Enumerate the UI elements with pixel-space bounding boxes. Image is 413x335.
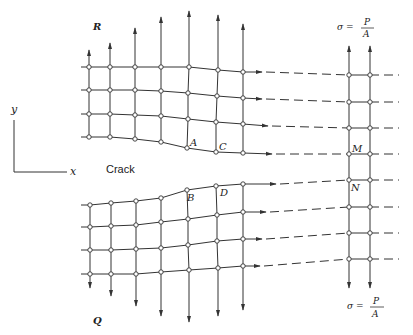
grid-node	[368, 257, 372, 261]
point-A-label: A	[189, 137, 197, 148]
grid-node	[216, 68, 220, 72]
grid-node	[241, 210, 245, 214]
grid-node	[187, 65, 191, 69]
y-axis-label: y	[10, 103, 18, 116]
grid-node	[88, 203, 92, 207]
grid-column-arrow-up	[216, 15, 218, 152]
grid-node	[215, 94, 219, 98]
dashed-connector	[270, 207, 349, 212]
grid-node	[241, 70, 245, 74]
grid-node	[109, 248, 113, 252]
grid-node	[134, 223, 138, 227]
grid-node	[241, 237, 245, 241]
grid-node	[347, 257, 351, 261]
grid-node	[134, 272, 138, 276]
grid-node	[108, 88, 112, 92]
grid-node	[347, 205, 351, 209]
grid-node	[159, 114, 163, 118]
grid-node	[216, 266, 220, 270]
grid-node	[88, 248, 92, 252]
dashed-connector	[266, 233, 349, 239]
grid-node	[241, 151, 245, 155]
grid-node	[108, 65, 112, 69]
dashed-connector	[272, 126, 349, 128]
sigma-lhs: σ =	[347, 301, 364, 311]
sigma-denominator: A	[362, 29, 370, 39]
grid-node	[159, 89, 163, 93]
grid-node	[241, 182, 245, 186]
grid-node	[368, 205, 372, 209]
grid-node	[347, 73, 351, 77]
grid-node	[368, 100, 372, 104]
grid-node	[109, 272, 113, 276]
grid-node	[215, 213, 219, 217]
grid-node	[134, 199, 138, 203]
grid-node	[133, 88, 137, 92]
point-D-label: D	[219, 187, 228, 198]
label-Q: Q	[93, 315, 102, 326]
grid-node	[347, 152, 351, 156]
grid-node	[133, 65, 137, 69]
grid-node	[186, 91, 190, 95]
grid-node	[159, 196, 163, 200]
grid-node	[186, 117, 190, 121]
grid-node	[108, 112, 112, 116]
grid-node	[368, 126, 372, 130]
x-axis-label: x	[70, 165, 77, 178]
far-field-grid	[264, 46, 399, 288]
grid-node	[88, 272, 92, 276]
grid-node	[87, 112, 91, 116]
dashed-connector	[264, 259, 349, 266]
grid-node	[159, 220, 163, 224]
grid-node	[368, 152, 372, 156]
sigma-lhs: σ =	[337, 22, 354, 32]
grid-node	[134, 247, 138, 251]
grid-node	[133, 113, 137, 117]
stress-formula-bottom: σ = P A	[347, 296, 384, 319]
grid-node	[159, 65, 163, 69]
grid-node	[186, 243, 190, 247]
point-N-label: N	[350, 182, 361, 193]
grid-node	[347, 126, 351, 130]
grid-node	[241, 96, 245, 100]
sigma-denominator: A	[371, 309, 379, 319]
dashed-connector	[280, 180, 349, 184]
grid-column-arrow-down	[187, 190, 189, 322]
grid-node	[368, 231, 372, 235]
grid-node	[214, 150, 218, 154]
grid-node	[159, 246, 163, 250]
grid-node	[241, 264, 245, 268]
crack-label: Crack	[106, 163, 135, 175]
grid-node	[109, 201, 113, 205]
grid-node	[133, 137, 137, 141]
stress-formula-top: σ = P A	[337, 17, 374, 39]
dashed-connector	[266, 99, 349, 102]
point-M-label: M	[351, 143, 363, 154]
stress-concentration-diagram: y x R Q Crack A B C D M N σ = P A σ = P …	[0, 0, 413, 335]
grid-node	[87, 135, 91, 139]
grid-node	[347, 100, 351, 104]
grid-row-line	[81, 239, 262, 250]
grid-node	[347, 231, 351, 235]
grid-node	[187, 268, 191, 272]
grid-node	[108, 135, 112, 139]
grid-node	[241, 122, 245, 126]
grid-node	[215, 239, 219, 243]
grid-node	[88, 225, 92, 229]
lower-deformed-grid	[81, 182, 276, 322]
grid-node	[185, 146, 189, 150]
grid-node	[87, 65, 91, 69]
grid-node	[214, 184, 218, 188]
grid-node	[87, 88, 91, 92]
point-C-label: C	[219, 141, 227, 152]
grid-column-arrow-up	[187, 11, 189, 148]
grid-node	[368, 73, 372, 77]
y-axis-line	[14, 120, 67, 172]
grid-node	[214, 120, 218, 124]
grid-node	[109, 224, 113, 228]
sigma-numerator: P	[363, 17, 371, 27]
grid-node	[368, 178, 372, 182]
sigma-numerator: P	[372, 296, 380, 306]
grid-node	[159, 140, 163, 144]
grid-row-line	[81, 266, 260, 274]
